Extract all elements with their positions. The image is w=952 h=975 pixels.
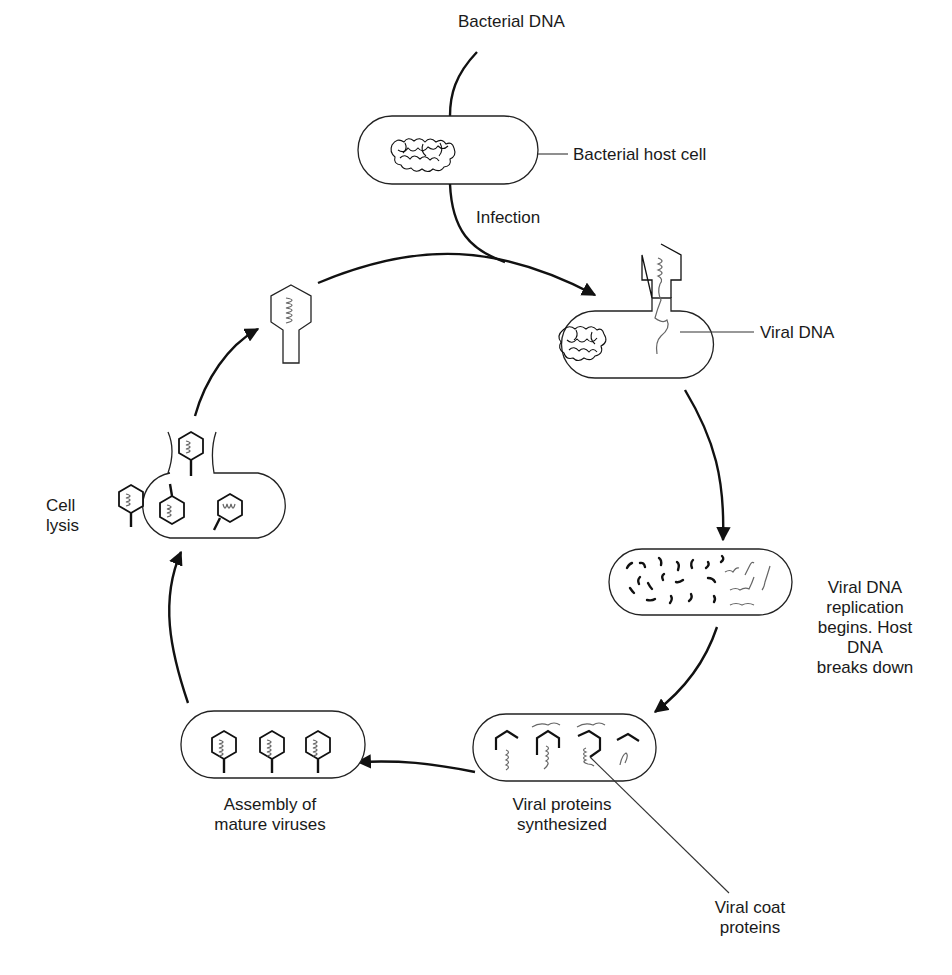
label-assembly-line-1: Assembly of [202,795,338,815]
replication-cell [609,549,792,615]
label-replication: Viral DNA replication begins. Host DNA b… [797,578,933,678]
label-replication-line-2: replication [797,598,933,618]
label-assembly: Assembly of mature viruses [202,795,338,835]
bacterial-host-cell [358,52,538,184]
label-lysis-line-1: Cell [46,496,79,516]
label-coat-line-1: Viral coat [700,898,800,918]
free-phage-icon [271,285,311,363]
label-viral-coat-proteins: Viral coat proteins [700,898,800,938]
infected-cell [559,244,714,378]
label-proteins-line-1: Viral proteins [494,795,630,815]
label-bacterial-dna: Bacterial DNA [458,12,565,32]
label-coat-line-2: proteins [700,918,800,938]
label-proteins-line-2: synthesized [494,815,630,835]
virus-in-cell-icon-1 [119,485,143,527]
label-lysis-line-2: lysis [46,516,79,536]
arrow-to-lysis [169,552,188,703]
label-cell-lysis: Cell lysis [46,496,79,536]
label-proteins-synthesized: Viral proteins synthesized [494,795,630,835]
synthesis-cell [473,714,656,781]
lysis-cell [119,432,285,538]
arrow-to-free-phage [195,329,258,416]
label-viral-dna: Viral DNA [760,323,834,343]
label-replication-line-1: Viral DNA [797,578,933,598]
label-replication-line-5: breaks down [797,658,933,678]
bacterial-dna-line [450,52,477,116]
label-replication-line-4: DNA [797,638,933,658]
label-infection: Infection [476,208,540,228]
label-assembly-line-2: mature viruses [202,815,338,835]
arrow-to-synthesis [655,627,717,712]
arrow-to-replication [685,390,723,540]
arrow-to-assembly [358,761,475,772]
arrow-to-infection [318,254,595,295]
label-bacterial-host-cell: Bacterial host cell [573,145,706,165]
label-replication-line-3: begins. Host [797,618,933,638]
lytic-cycle-diagram [0,0,952,975]
assembly-cell [181,711,365,778]
